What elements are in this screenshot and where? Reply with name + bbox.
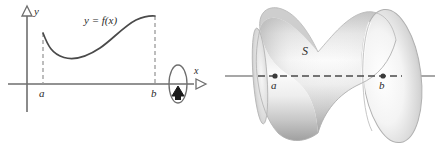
surface-panel: a b S — [220, 0, 440, 151]
graph-svg: y x y = f(x) a b — [0, 0, 220, 151]
rotation-arrow-stem — [175, 94, 181, 100]
x-tick-label-a: a — [39, 87, 45, 99]
point-a-label: a — [271, 79, 277, 91]
x-tick-label-b: b — [151, 87, 157, 99]
y-axis-label: y — [33, 5, 39, 17]
x-axis-arrowhead-icon — [196, 79, 206, 89]
surface-svg: a b S — [220, 0, 440, 151]
y-axis-arrowhead-icon — [22, 6, 32, 16]
surface-of-revolution-figure: y x y = f(x) a b — [0, 0, 440, 151]
point-b-marker — [380, 73, 385, 78]
surface-label: S — [302, 44, 308, 58]
point-b-label: b — [379, 79, 385, 91]
graph-panel: y x y = f(x) a b — [0, 0, 220, 151]
x-axis-label: x — [193, 65, 199, 76]
curve-label: y = f(x) — [83, 14, 117, 27]
point-a-marker — [272, 73, 277, 78]
